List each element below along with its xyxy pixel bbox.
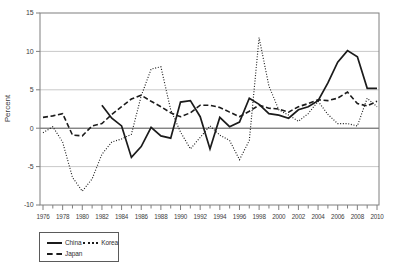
x-tick-label: 1986 xyxy=(135,213,149,220)
y-tick-label: 5 xyxy=(30,86,34,93)
y-tick-label: -10 xyxy=(24,201,34,208)
x-tick-label: 2000 xyxy=(272,213,286,220)
legend-row-1: China Korea xyxy=(47,237,118,248)
x-tick-label: 1978 xyxy=(56,213,70,220)
x-tick-label: 2006 xyxy=(331,213,345,220)
x-tick-label: 1988 xyxy=(154,213,168,220)
legend-row-2: Japan xyxy=(47,248,118,259)
y-tick-label: 0 xyxy=(30,125,34,132)
x-tick-label: 1996 xyxy=(233,213,247,220)
series-line-korea xyxy=(43,38,377,192)
y-axis-title: Percent xyxy=(1,83,14,135)
x-tick-label: 1980 xyxy=(76,213,90,220)
series-line-japan xyxy=(43,92,377,136)
x-tick-label: 1992 xyxy=(194,213,208,220)
x-tick-label: 2004 xyxy=(311,213,325,220)
y-tick-label: 15 xyxy=(26,9,34,16)
x-tick-label: 1990 xyxy=(174,213,188,220)
x-tick-label: 1998 xyxy=(253,213,267,220)
series-line-china xyxy=(102,51,377,158)
legend-label-korea: Korea xyxy=(101,239,118,246)
line-chart-figure: 151050-5-1019761978198019821984198619881… xyxy=(0,0,393,271)
legend: China Korea Japan xyxy=(39,232,119,262)
legend-label-china: China xyxy=(65,239,81,246)
dashed-line-swatch-icon xyxy=(47,253,62,255)
x-tick-label: 1976 xyxy=(36,213,50,220)
y-tick-label: -5 xyxy=(28,163,34,170)
x-tick-label: 2008 xyxy=(351,213,365,220)
line-chart-canvas: 151050-5-1019761978198019821984198619881… xyxy=(0,0,393,271)
x-tick-label: 2002 xyxy=(292,213,306,220)
plot-frame xyxy=(40,13,379,205)
legend-label-japan: Japan xyxy=(65,250,82,257)
legend-item-china: China xyxy=(47,239,83,246)
solid-line-swatch-icon xyxy=(47,242,62,244)
y-tick-label: 10 xyxy=(26,48,34,55)
legend-item-japan: Japan xyxy=(47,250,85,257)
x-tick-label: 1984 xyxy=(115,213,129,220)
x-tick-label: 1994 xyxy=(213,213,227,220)
legend-item-korea: Korea xyxy=(83,239,118,246)
x-tick-label: 2010 xyxy=(370,213,384,220)
dotted-line-swatch-icon xyxy=(83,242,98,244)
x-tick-label: 1982 xyxy=(95,213,109,220)
